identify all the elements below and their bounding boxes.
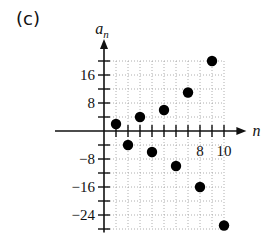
scatter-chart: 168−8−16−24810ann [0, 0, 277, 245]
data-point [147, 147, 157, 157]
data-point [123, 140, 133, 150]
data-point [219, 220, 229, 230]
y-axis-arrow-icon [100, 39, 108, 49]
y-tick-label: 16 [80, 67, 96, 83]
y-tick-label: −8 [79, 151, 95, 167]
x-axis-label: n [252, 122, 260, 139]
y-tick-label: −16 [72, 179, 96, 195]
data-point [171, 161, 181, 171]
data-point [135, 112, 145, 122]
x-tick-label: 8 [196, 143, 204, 159]
data-point [207, 56, 217, 66]
y-tick-label: 8 [88, 95, 96, 111]
data-point [195, 182, 205, 192]
y-axis-label: an [95, 20, 109, 40]
x-axis-arrow-icon [236, 127, 246, 135]
data-point [183, 87, 193, 97]
y-tick-label: −24 [72, 207, 96, 223]
data-point [159, 105, 169, 115]
data-point [111, 119, 121, 129]
x-tick-label: 10 [217, 143, 232, 159]
